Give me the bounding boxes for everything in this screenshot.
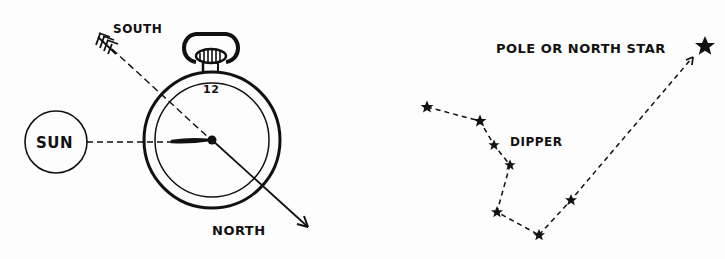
watch-crown-icon xyxy=(184,34,238,72)
twelve-label: 12 xyxy=(203,83,219,96)
watch-method-panel xyxy=(25,33,308,227)
pole-star-label: POLE OR NORTH STAR xyxy=(496,41,666,56)
star-icon xyxy=(474,115,487,127)
south-label: SOUTH xyxy=(113,22,162,36)
direction-finding-diagram: SOUTH SUN 12 NORTH POLE OR NORTH STAR DI… xyxy=(0,0,725,259)
hour-hand xyxy=(172,139,210,142)
sun-label: SUN xyxy=(36,134,73,152)
star-icon xyxy=(533,229,545,240)
dipper-handle-line xyxy=(427,107,539,235)
north-label: NORTH xyxy=(212,223,266,238)
star-icon xyxy=(421,101,434,113)
dipper-label: DIPPER xyxy=(510,135,562,149)
pole-star-icon xyxy=(695,36,715,55)
star-icon xyxy=(491,206,503,217)
star-group xyxy=(421,36,715,240)
star-icon xyxy=(565,194,577,205)
star-icon xyxy=(488,139,499,150)
diagram-canvas: SOUTH SUN 12 NORTH POLE OR NORTH STAR DI… xyxy=(0,0,725,259)
north-arrow xyxy=(212,140,308,227)
